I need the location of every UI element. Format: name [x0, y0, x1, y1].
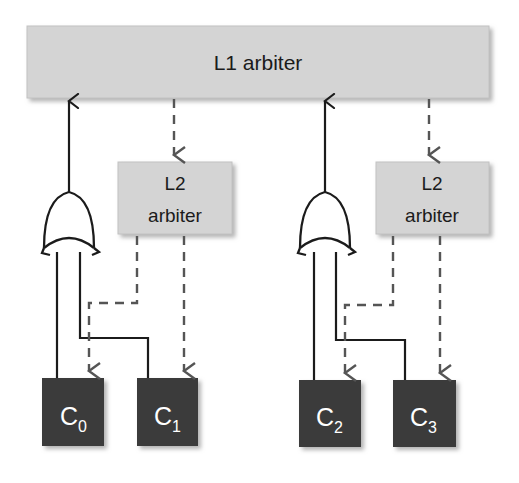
- edge-l2-left-to-core0: [89, 236, 137, 371]
- l2-arbiter-left-node[interactable]: L2 arbiter: [118, 162, 232, 234]
- or-gate-left-tip: [92, 248, 99, 255]
- or-gate-left-body: [44, 192, 94, 248]
- or-gate-left[interactable]: [42, 192, 99, 255]
- core-0-subscript: 0: [78, 418, 87, 435]
- l2-arbiter-right-label-line1: L2: [421, 173, 442, 194]
- core-2-subscript: 2: [334, 419, 343, 436]
- core-1-label: C: [154, 402, 172, 430]
- core-3-subscript: 3: [428, 419, 437, 436]
- core-2-label: C: [316, 403, 334, 431]
- or-gate-right[interactable]: [298, 192, 355, 255]
- or-gate-right-tip: [348, 248, 355, 255]
- or-gate-left-base: [44, 238, 94, 248]
- or-gate-right-body: [300, 192, 350, 248]
- or-gate-right-tip2: [298, 248, 306, 255]
- diagram-canvas: L1 arbiter L2 arbiter L2 arbiter C 0 C 1: [0, 0, 519, 483]
- l2-arbiter-left-label-line2: arbiter: [148, 205, 203, 226]
- core-1-subscript: 1: [172, 418, 181, 435]
- l2-arbiter-right-label-line2: arbiter: [405, 205, 460, 226]
- l1-arbiter-label: L1 arbiter: [214, 51, 303, 74]
- l1-arbiter-node[interactable]: L1 arbiter: [27, 26, 489, 98]
- core-0-node[interactable]: C 0: [42, 378, 104, 446]
- core-3-node[interactable]: C 3: [393, 380, 456, 447]
- edge-core3-to-orgate-right: [336, 252, 405, 380]
- l2-arbiter-right-node[interactable]: L2 arbiter: [376, 162, 489, 234]
- or-gate-right-base: [300, 238, 350, 248]
- edge-l2-right-to-core2: [345, 236, 393, 373]
- core-3-label: C: [410, 403, 428, 431]
- core-1-node[interactable]: C 1: [137, 378, 198, 446]
- core-2-node[interactable]: C 2: [299, 380, 361, 447]
- core-0-label: C: [60, 402, 78, 430]
- arbiter-hierarchy-diagram: L1 arbiter L2 arbiter L2 arbiter C 0 C 1: [0, 0, 519, 483]
- l2-arbiter-left-label-line1: L2: [164, 173, 185, 194]
- or-gate-left-tip2: [42, 248, 50, 255]
